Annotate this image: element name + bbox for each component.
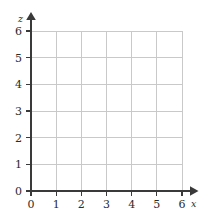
xtick-label-2: 2 <box>78 198 85 211</box>
ytick-label-2: 2 <box>15 132 22 145</box>
ytick-label-1: 1 <box>15 158 22 171</box>
ytick-label-0: 0 <box>15 185 22 198</box>
ytick-label-3: 3 <box>15 105 22 118</box>
ytick-label-4: 4 <box>15 78 22 91</box>
xtick-label-0: 0 <box>28 198 35 211</box>
x-axis-label: x <box>191 198 197 209</box>
graph-canvas: 0 1 2 3 4 5 6 0 1 2 3 4 5 6 z x <box>0 0 209 216</box>
xtick-label-3: 3 <box>103 198 110 211</box>
ytick-label-6: 6 <box>15 25 22 38</box>
xtick-label-5: 5 <box>153 198 160 211</box>
ytick-label-5: 5 <box>15 52 22 65</box>
y-axis-label: z <box>17 13 24 24</box>
xtick-label-4: 4 <box>128 198 135 211</box>
xtick-label-6: 6 <box>179 198 186 211</box>
coordinate-grid-figure: 0 1 2 3 4 5 6 0 1 2 3 4 5 6 z x <box>0 0 209 216</box>
xtick-label-1: 1 <box>53 198 60 211</box>
